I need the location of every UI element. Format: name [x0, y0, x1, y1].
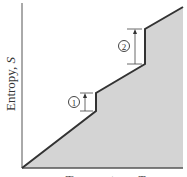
jump-annotation-1	[80, 93, 93, 111]
entropy-plot	[0, 0, 187, 177]
y-axis-label: Entropy, S	[3, 39, 19, 129]
marker-2: 2	[118, 40, 130, 52]
area-under-curve	[22, 7, 183, 168]
marker-1: 1	[68, 96, 80, 108]
arrow-up-icon	[83, 93, 87, 98]
x-axis-label: Temperature, T	[40, 172, 170, 177]
arrow-up-icon	[133, 29, 137, 34]
